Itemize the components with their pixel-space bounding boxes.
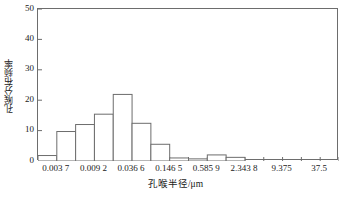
x-axis-title: 孔喉半径/μm bbox=[0, 179, 351, 190]
histogram-bar bbox=[57, 132, 76, 161]
y-tick-label: 50 bbox=[25, 4, 34, 13]
histogram-bar bbox=[170, 158, 189, 161]
plot-area bbox=[37, 8, 338, 160]
chart-figure: 孔喉分布频率 01020304050 0.003 70.009 20.036 6… bbox=[0, 0, 351, 199]
histogram-bar bbox=[151, 144, 170, 161]
x-tick-label: 0.585 9 bbox=[193, 163, 220, 173]
x-tick-label: 0.003 7 bbox=[42, 163, 69, 173]
histogram-bar bbox=[76, 125, 95, 161]
y-tick-label: 30 bbox=[25, 64, 34, 73]
histogram-bar bbox=[113, 94, 132, 161]
x-axis-tick-labels: 0.003 70.009 20.036 60.146 50.585 92.343… bbox=[0, 163, 351, 177]
y-tick-label: 10 bbox=[25, 125, 34, 134]
x-tick-label: 37.5 bbox=[311, 163, 327, 173]
y-tick-label: 40 bbox=[25, 34, 34, 43]
x-tick-label: 2.343 8 bbox=[230, 163, 257, 173]
histogram-bar bbox=[132, 123, 151, 161]
histogram-bar bbox=[94, 114, 113, 161]
histogram-bar bbox=[207, 155, 226, 161]
x-tick-label: 0.036 6 bbox=[118, 163, 145, 173]
histogram-bar bbox=[38, 156, 57, 161]
histogram-bars bbox=[38, 9, 339, 161]
x-tick-label: 0.146 5 bbox=[155, 163, 182, 173]
x-tick-label: 0.009 2 bbox=[80, 163, 107, 173]
y-tick-label: 20 bbox=[25, 95, 34, 104]
x-tick-label: 9.375 bbox=[271, 163, 291, 173]
histogram-bar bbox=[189, 159, 208, 161]
histogram-bar bbox=[226, 157, 245, 161]
